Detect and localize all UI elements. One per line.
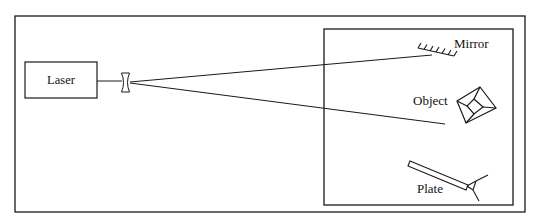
enclosure-box (324, 29, 513, 205)
diverging-lens-icon (122, 73, 130, 92)
object-label: Object (413, 94, 448, 107)
mirror-label: Mirror (454, 37, 489, 50)
holography-diagram (0, 0, 538, 224)
mirror-icon (418, 43, 457, 56)
object-beam (130, 83, 445, 124)
plate-label: Plate (417, 182, 443, 195)
object-icon (457, 87, 496, 123)
laser-label: Laser (25, 62, 97, 98)
reference-beam (130, 55, 432, 82)
